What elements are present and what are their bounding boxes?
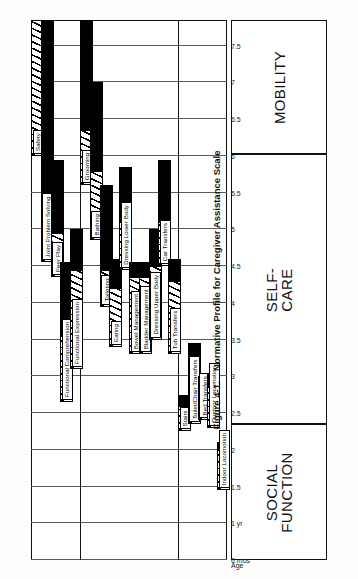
figure-caption: Figure 4-1. Normative Profile for Caregi… — [211, 150, 222, 429]
axis-tick-label: 7 — [231, 79, 235, 86]
axis-name: Age — [231, 562, 243, 569]
axis-tick-label: 2 — [231, 446, 235, 453]
caption-number: Figure 4-1. — [211, 381, 222, 429]
category-label-social-function: SOCIAL FUNCTION — [264, 425, 294, 560]
axis-tick-label: 2.5 — [231, 410, 241, 417]
chart-rotated-canvas: SafetyJoint Problem SolvingPeer PlayFunc… — [31, 20, 327, 560]
bar-label: Indoor Locomotion — [219, 430, 230, 488]
axis-tick-label: 4.5 — [231, 263, 241, 270]
category-label-self-care: SELF- CARE — [264, 155, 294, 425]
axis-tick-label: 7.5 — [231, 42, 241, 49]
category-label-mobility: MOBILITY — [272, 20, 287, 155]
figure-container: SafetyJoint Problem SolvingPeer PlayFunc… — [0, 0, 358, 579]
axis-tick-label: 5 — [231, 226, 235, 233]
axis-tick-label: 1.5 — [231, 483, 241, 490]
axis-tick-label: 4 — [231, 299, 235, 306]
axis-tick-label: 5.5 — [231, 189, 241, 196]
caption-title: Normative Profile for Caregiver Assistan… — [211, 150, 222, 370]
axis-tick-label: 3.5 — [231, 336, 241, 343]
axis-tick-label: 6.5 — [231, 116, 241, 123]
axis-tick-label: 3 — [231, 373, 235, 380]
axis-tick-label: 1 yr — [231, 520, 243, 527]
